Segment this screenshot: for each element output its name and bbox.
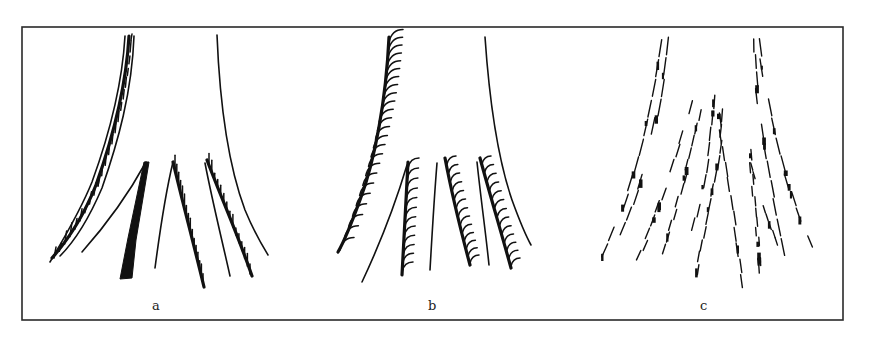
scribble-segment xyxy=(708,142,710,155)
scribble-segment xyxy=(692,218,695,230)
hatch-stroke xyxy=(459,208,468,216)
panel-a-right-trunk xyxy=(217,35,268,255)
scribble-blotch xyxy=(662,73,664,79)
texture-tick xyxy=(102,165,103,176)
hatch-stroke xyxy=(451,173,460,181)
scribble-segment xyxy=(781,156,785,171)
scribble-segment xyxy=(808,236,813,247)
scribble-segment xyxy=(709,127,710,140)
hatch-stroke xyxy=(389,37,403,50)
scribble-segment xyxy=(662,188,666,200)
scribble-segment xyxy=(628,175,633,190)
scribble-blotch xyxy=(768,221,771,229)
hatch-stroke xyxy=(461,216,470,224)
scribble-segment xyxy=(757,72,758,86)
scribble-blotch xyxy=(658,202,661,210)
scribble-segment xyxy=(723,147,725,161)
hatch-stroke xyxy=(509,250,518,258)
scribble-blotch xyxy=(758,258,762,263)
hatch-stroke xyxy=(453,182,462,190)
scribble-blotch xyxy=(695,125,697,131)
scribble-blotch xyxy=(756,242,759,247)
scribble-segment xyxy=(699,110,701,121)
scribble-blotch xyxy=(715,164,718,171)
scribble-blotch xyxy=(788,184,791,191)
scribble-segment xyxy=(777,219,780,236)
texture-tick xyxy=(109,145,110,155)
hatch-stroke xyxy=(505,234,514,242)
scribble-segment xyxy=(771,181,774,197)
texture-tick xyxy=(54,247,56,258)
scribble-segment xyxy=(634,157,638,173)
scribble-segment xyxy=(698,251,700,262)
panel-b-label: b xyxy=(428,298,436,313)
scribble-segment xyxy=(720,125,722,138)
scribble-segment xyxy=(763,206,765,213)
scribble-blotch xyxy=(701,185,703,189)
scribble-segment xyxy=(634,191,639,205)
hatch-stroke xyxy=(470,255,479,263)
scribble-segment xyxy=(756,208,757,217)
panel-b-branch-thin-left xyxy=(362,165,407,282)
scribble-segment xyxy=(700,240,702,251)
scribble-blotch xyxy=(711,111,714,117)
scribble-segment xyxy=(689,148,692,159)
texture-tick xyxy=(94,183,96,195)
scribble-segment xyxy=(734,228,736,242)
scribble-blotch xyxy=(755,85,759,93)
hatch-stroke xyxy=(495,200,504,208)
scribble-segment xyxy=(722,109,723,122)
scribble-segment xyxy=(751,163,753,170)
scribble-segment xyxy=(620,223,625,235)
scribble-segment xyxy=(759,266,760,274)
scribble-blotch xyxy=(695,268,698,277)
texture-tick xyxy=(115,122,116,133)
scribble-segment xyxy=(734,211,736,225)
scribble-segment xyxy=(757,218,758,227)
scribble-blotch xyxy=(712,99,714,107)
scribble-segment xyxy=(697,204,700,217)
panel-c-label: c xyxy=(700,298,707,313)
texture-tick xyxy=(80,209,82,221)
panel-a-left-trunk-texture xyxy=(54,34,132,258)
panel-a-label: a xyxy=(152,298,160,313)
scribble-segment xyxy=(756,228,757,236)
scribble-segment xyxy=(706,213,708,225)
hatch-stroke xyxy=(455,191,464,199)
scribble-segment xyxy=(773,230,775,237)
scribble-segment xyxy=(756,55,757,69)
scribble-segment xyxy=(681,184,684,194)
scribble-segment xyxy=(648,100,652,117)
scribble-segment xyxy=(652,79,655,96)
panel-a: a xyxy=(50,34,268,313)
scribble-segment xyxy=(675,197,678,207)
scribble-segment xyxy=(704,227,706,238)
scribble-blotch xyxy=(737,246,739,254)
scribble-blotch xyxy=(798,217,801,225)
texture-tick xyxy=(131,34,132,40)
hatch-stroke xyxy=(502,226,511,234)
scribble-blotch xyxy=(632,171,636,178)
scribble-blotch xyxy=(683,175,686,180)
hatch-stroke xyxy=(466,240,475,248)
scribble-blotch xyxy=(652,217,656,223)
panel-b-center-thin xyxy=(430,163,437,270)
scribble-segment xyxy=(759,39,761,56)
scribble-blotch xyxy=(773,128,776,134)
panel-b-left-trunk-hatching xyxy=(340,29,403,250)
scribble-segment xyxy=(792,192,797,206)
panel-b-right-hatched-edge xyxy=(480,158,511,268)
texture-tick xyxy=(75,218,77,229)
panel-b-right-inner-thin xyxy=(477,162,489,265)
scribble-segment xyxy=(731,196,733,210)
scribble-segment xyxy=(769,99,772,116)
texture-tick xyxy=(125,77,126,87)
scribble-segment xyxy=(755,197,756,206)
panel-b-right-trunk xyxy=(485,37,531,245)
texture-tick xyxy=(123,90,124,99)
scribble-blotch xyxy=(761,66,763,70)
texture-tick xyxy=(127,68,128,75)
scribble-segment xyxy=(669,220,672,230)
texture-tick xyxy=(121,102,122,110)
scribble-segment xyxy=(659,40,662,57)
